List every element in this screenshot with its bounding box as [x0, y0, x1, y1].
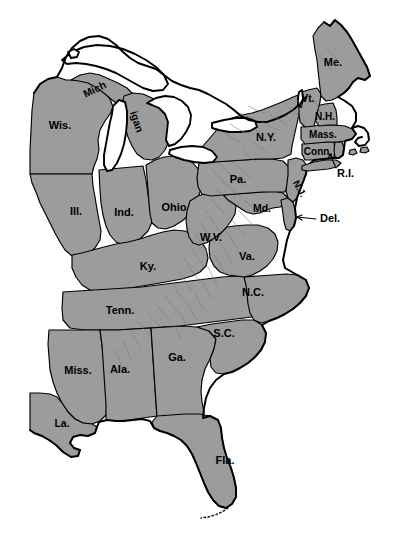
label-south-carolina: S.C.	[213, 327, 234, 339]
callout-labels-layer: R.I. Del.	[320, 167, 354, 224]
label-wisconsin: Wis.	[49, 119, 72, 131]
map-container: Wis. Mich igan Ill. Ind. Ohio Ky. Tenn. …	[0, 0, 410, 540]
state-north-carolina	[244, 274, 309, 323]
label-west-virginia: W.V.	[200, 231, 222, 243]
label-vermont: Vt.	[302, 93, 315, 104]
eastern-us-map-svg: Wis. Mich igan Ill. Ind. Ohio Ky. Tenn. …	[0, 0, 410, 540]
label-mississippi: Miss.	[64, 364, 92, 376]
island-marthas-vineyard	[349, 149, 357, 155]
label-illinois: Ill.	[70, 205, 82, 217]
label-pennsylvania: Pa.	[230, 173, 247, 185]
label-kentucky: Ky.	[140, 260, 156, 272]
label-new-york: N.Y.	[256, 131, 276, 143]
label-virginia: Va.	[239, 250, 255, 262]
label-connecticut: Conn.	[304, 146, 333, 157]
label-new-hampshire: N.H.	[315, 111, 335, 122]
florida-keys	[201, 508, 228, 518]
label-north-carolina: N.C.	[242, 286, 264, 298]
label-maine: Me.	[324, 56, 342, 68]
label-rhode-island: R.I.	[337, 167, 354, 179]
label-massachusetts: Mass.	[309, 129, 337, 140]
label-georgia: Ga.	[168, 351, 186, 363]
label-louisiana: La.	[54, 417, 69, 429]
label-tennessee: Tenn.	[106, 304, 135, 316]
state-georgia	[151, 326, 216, 424]
label-maryland: Md.	[253, 202, 271, 214]
island-nantucket	[360, 147, 369, 153]
label-delaware: Del.	[320, 212, 340, 224]
label-ohio: Ohio	[161, 201, 186, 213]
label-alabama: Ala.	[110, 363, 130, 375]
label-indiana: Ind.	[114, 206, 134, 218]
state-illinois	[30, 174, 101, 258]
label-florida: Fla.	[216, 454, 235, 466]
